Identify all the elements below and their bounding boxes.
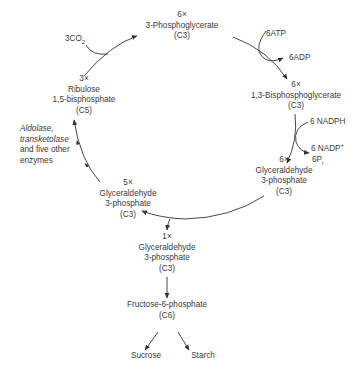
arrow-f6p-to-starch bbox=[178, 332, 189, 350]
arrow-gap5-to-rubp bbox=[74, 120, 100, 182]
node-sucrose: Sucrose bbox=[131, 351, 161, 362]
arrow-rubp-to-pga bbox=[84, 36, 137, 76]
count: 6× bbox=[246, 155, 322, 166]
carbon-count: (C5) bbox=[46, 106, 122, 117]
count: 3× bbox=[46, 74, 122, 85]
count: 6× bbox=[246, 80, 346, 91]
cofactor-atp: 6ATP bbox=[266, 29, 286, 40]
carbon-count: (C3) bbox=[246, 101, 346, 112]
compound-name-2: 1,5-bisphosphate bbox=[46, 95, 122, 106]
node-ribulose-1-5-bisphosphate: 3× Ribulose 1,5-bisphosphate (C5) bbox=[46, 74, 122, 116]
arrow-f6p-to-sucrose bbox=[145, 332, 158, 350]
compound-name-2: 3-phosphate bbox=[246, 176, 322, 187]
compound-name: 3-Phosphoglycerate bbox=[142, 21, 222, 32]
arrow-pga-to-bpg bbox=[233, 37, 287, 79]
node-1-3-bisphosphoglycerate: 6× 1,3-Bisphosphoglycerate (C3) bbox=[246, 80, 346, 112]
compound-name: Glyceraldehyde bbox=[246, 166, 322, 177]
carbon-count: (C3) bbox=[90, 210, 166, 221]
cofactor-adp: 6ADP bbox=[289, 53, 310, 64]
node-fructose-6-phosphate: Fructose-6-phosphate (C6) bbox=[117, 300, 217, 321]
compound-name: Fructose-6-phosphate bbox=[117, 300, 217, 311]
node-starch: Starch bbox=[188, 351, 218, 362]
carbon-count: (C6) bbox=[117, 311, 217, 322]
enzymes-label: Aldolase, transketolase and five other e… bbox=[20, 124, 70, 166]
count: 1× bbox=[129, 232, 205, 243]
count: 6× bbox=[142, 10, 222, 21]
compound-name: Ribulose bbox=[46, 85, 122, 96]
carbon-count: (C3) bbox=[246, 187, 322, 198]
cofactor-nadph: 6 NADPH bbox=[310, 117, 346, 128]
compound-name: 1,3-Bisphosphoglycerate bbox=[246, 91, 346, 102]
arrow-co2-in bbox=[86, 45, 108, 54]
arrow-branch-gap1 bbox=[167, 219, 170, 230]
node-3-phosphoglycerate: 6× 3-Phosphoglycerate (C3) bbox=[142, 10, 222, 42]
carbon-count: (C3) bbox=[129, 264, 205, 275]
cofactor-phosphate: 6Pi bbox=[312, 155, 323, 166]
carbon-count: (C3) bbox=[142, 31, 222, 42]
cofactor-nadp-plus: 6 NADP+ bbox=[311, 144, 344, 155]
compound-name: Glyceraldehyde bbox=[90, 189, 166, 200]
compound-name-2: 3-phosphate bbox=[90, 199, 166, 210]
node-glyceraldehyde-3-phosphate-1x: 1× Glyceraldehyde 3-phosphate (C3) bbox=[129, 232, 205, 274]
compound-name: Glyceraldehyde bbox=[129, 243, 205, 254]
node-glyceraldehyde-3-phosphate-5x: 5× Glyceraldehyde 3-phosphate (C3) bbox=[90, 178, 166, 220]
node-glyceraldehyde-3-phosphate-6x: 6× Glyceraldehyde 3-phosphate (C3) bbox=[246, 155, 322, 197]
compound-name-2: 3-phosphate bbox=[129, 253, 205, 264]
count: 5× bbox=[90, 178, 166, 189]
cofactor-co2: 3CO2 bbox=[65, 34, 85, 45]
arrow-nadph-nadp bbox=[296, 122, 310, 153]
